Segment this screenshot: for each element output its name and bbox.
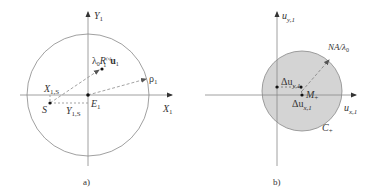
ux-axis-label: ux,1: [344, 102, 357, 116]
rho-label: ρ1: [149, 73, 158, 86]
dx-point: [300, 93, 303, 96]
panel-b: uy,1 ux,1 Δuy,1 Δux,1 M+ NA/λ0 C+ b): [205, 10, 357, 187]
panel-a-caption: a): [83, 177, 90, 187]
line-e-to-rho: [88, 79, 146, 95]
x-projection-label: X1,S: [43, 83, 59, 96]
origin-point: [86, 93, 90, 97]
panel-b-caption: b): [273, 177, 281, 187]
panel-a: Y1 X1 E1 S X1,S Y1,S λ0R(s)1u1 ρ1 a): [20, 10, 173, 187]
source-point: [48, 101, 51, 104]
y-projection-label: Y1,S: [66, 105, 81, 118]
dy-point: [275, 85, 278, 88]
y-axis-label: Y1: [94, 10, 104, 23]
uy-axis-label: uy,1: [282, 10, 295, 24]
radius-label: NA/λ0: [327, 42, 349, 53]
figure: Y1 X1 E1 S X1,S Y1,S λ0R(s)1u1 ρ1 a) uy,…: [0, 0, 378, 193]
lambda-label: λ0R(s)1u1: [92, 55, 119, 68]
source-label: S: [42, 104, 47, 115]
c-plus-label: C+: [322, 122, 333, 135]
x-axis-label: X1: [162, 103, 173, 116]
origin-label: E1: [90, 98, 101, 111]
